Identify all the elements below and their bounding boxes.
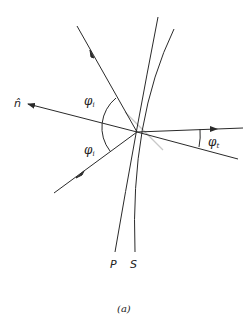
curve-s-label: S [130,258,137,271]
curve-p-label: P [110,258,117,271]
figure-caption: (a) [117,303,131,314]
refraction-diagram: n̂ φi φi φt P S (a) [0,0,252,325]
curve-p [115,17,158,252]
angle-arc-phi-t [199,129,200,147]
phi-i-upper-label: φi [84,94,95,109]
incident-arrow-icon [76,171,84,178]
transmitted-arrow-icon [210,126,218,132]
normal-line [137,132,238,159]
reflected-ray [77,26,137,132]
normal-arrow [28,104,137,132]
phi-t-label: φt [208,135,219,150]
incident-ray [54,132,137,193]
normal-label: n̂ [14,97,21,110]
phi-i-lower-label: φi [84,143,95,158]
transmitted-ray [137,128,243,132]
